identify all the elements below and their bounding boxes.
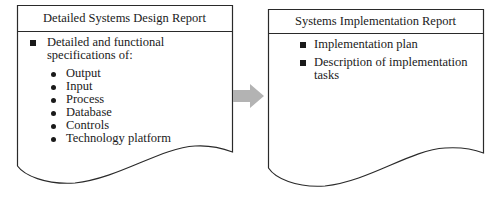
right-document-title: Systems Implementation Report: [268, 14, 483, 29]
round-bullet-icon: [51, 98, 56, 103]
left-item-text-line2: specifications of:: [47, 49, 133, 62]
round-bullet-icon: [51, 72, 56, 77]
round-bullet-icon: [51, 137, 56, 142]
square-bullet-icon: [300, 42, 306, 48]
right-document-shape: [269, 10, 484, 187]
left-document-shape: [18, 6, 233, 184]
left-document-title: Detailed Systems Design Report: [17, 11, 232, 26]
square-bullet-icon: [30, 40, 36, 46]
round-bullet-icon: [51, 85, 56, 90]
sublist-item-technology-platform: Technology platform: [66, 132, 171, 145]
flow-arrow-icon: [233, 84, 264, 108]
right-item-description-line2: tasks: [314, 69, 339, 82]
round-bullet-icon: [51, 111, 56, 116]
round-bullet-icon: [51, 124, 56, 129]
square-bullet-icon: [300, 60, 306, 66]
right-item-implementation-plan: Implementation plan: [314, 38, 418, 51]
